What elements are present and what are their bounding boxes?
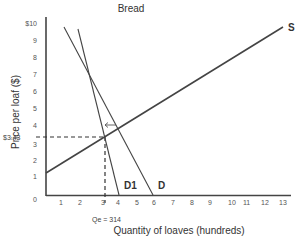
x-tick: 5 [135,199,139,206]
equilibrium-price-label: $3.43 [3,134,21,141]
demand-curve-d1 [78,29,119,195]
y-tick: 4 [33,122,37,129]
chart-title: Bread [118,3,145,14]
y-tick: 5 [33,105,37,112]
y-tick: 6 [33,88,37,95]
x-tick: 4 [116,199,120,206]
x-tick: 2 [78,199,82,206]
shift-arrow-icon [105,123,116,128]
demand1-label: D1 [124,180,137,191]
x-tick: 11 [243,199,250,206]
y-tick: 9 [33,37,37,44]
x-tick: 10 [228,199,236,206]
equilibrium-quantity-label: Qe = 314 [92,216,121,224]
supply-label: S [288,22,295,33]
y-tick: 1 [33,173,37,180]
y-tick: $10 [25,20,37,27]
y-tick: 8 [33,54,37,61]
y-tick-labels: $10 9 8 7 6 5 4 3 2 1 0 [25,20,37,203]
x-tick: 8 [190,199,194,206]
demand-label: D [158,180,165,191]
x-axis-title: Quantity of loaves (hundreds) [113,225,244,236]
x-tick-labels: 1 2 3 4 5 6 7 8 9 10 11 12 13 [59,199,287,206]
x-tick: 7 [171,199,175,206]
demand-curve-d [64,27,153,195]
y-tick: 3 [33,141,37,148]
x-tick: 1 [59,199,63,206]
y-tick: 2 [33,157,37,164]
x-tick: 12 [261,199,269,206]
origin-label: 0 [33,196,37,203]
supply-demand-chart: Bread Price per loaf ($) $10 9 8 7 6 5 4… [0,0,304,239]
supply-curve [46,27,283,173]
x-tick: 13 [279,199,287,206]
x-tick: 6 [152,199,156,206]
y-tick: 7 [33,71,37,78]
x-tick: 9 [208,199,212,206]
